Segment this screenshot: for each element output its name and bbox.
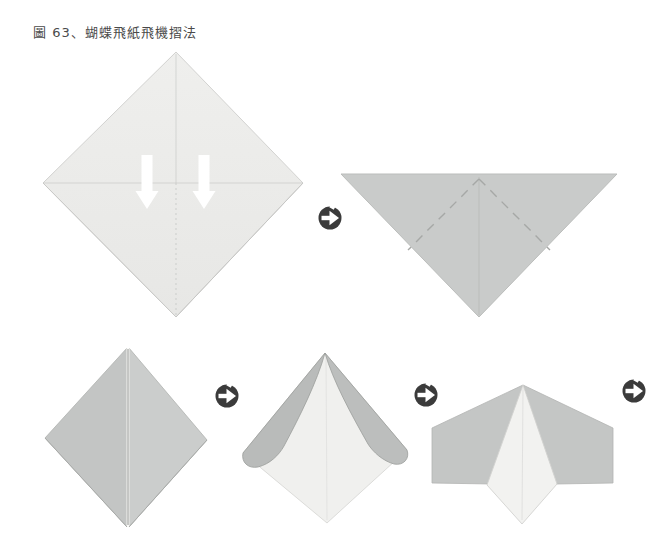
paper-square-diamond — [43, 52, 303, 317]
step-2-diagram — [335, 165, 627, 325]
step-5-diagram — [427, 380, 619, 530]
step-4-diagram — [238, 346, 414, 530]
next-step-arrow-icon — [621, 378, 647, 404]
step-1-diagram — [35, 45, 315, 325]
left-folded-flap — [45, 348, 127, 527]
arrow-shaft — [199, 155, 210, 192]
step-3-diagram — [38, 342, 214, 534]
figure-caption: 圖 63、蝴蝶飛紙飛機摺法 — [33, 22, 197, 41]
right-folded-flap — [129, 348, 207, 527]
origami-instruction-page: 圖 63、蝴蝶飛紙飛機摺法 — [0, 0, 663, 547]
next-step-arrow-icon — [214, 383, 240, 409]
arrow-shaft — [142, 155, 153, 192]
